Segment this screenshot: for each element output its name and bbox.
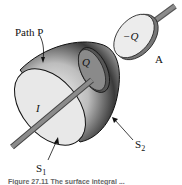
- label-s1: S1: [36, 162, 46, 177]
- figure-caption: Figure 27.11 The surface integral ...: [8, 178, 125, 185]
- label-s2: S2: [135, 138, 145, 153]
- label-plate-a: A: [155, 53, 163, 65]
- capacitor-surface-diagram: Path P Q −Q A I S1 S2: [0, 0, 182, 185]
- label-charge-q: Q: [82, 56, 90, 68]
- label-charge-neg-q: −Q: [123, 30, 138, 42]
- s2-arrow: [115, 120, 133, 140]
- label-path-p: Path P: [15, 26, 43, 38]
